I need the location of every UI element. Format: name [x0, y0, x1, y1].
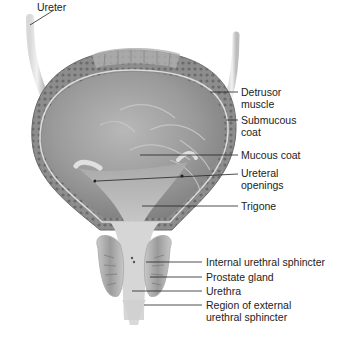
label-submucous-coat: Submucouscoat — [241, 114, 296, 138]
label-urethra: Urethra — [206, 285, 241, 297]
label-trigone: Trigone — [241, 200, 276, 212]
left-ureter — [30, 18, 44, 95]
prostate-right-lobe — [144, 235, 171, 296]
label-ureteral-openings: Ureteralopenings — [241, 167, 284, 191]
label-ureter: Ureter — [37, 1, 66, 13]
label-region-external-urethral-sphincter: Region of externalurethral sphincter — [206, 299, 291, 323]
bladder-diagram: Ureter Detrusormuscle Submucouscoat Muco… — [0, 0, 343, 343]
label-mucous-coat: Mucous coat — [241, 149, 301, 161]
right-ureter — [228, 35, 236, 100]
label-prostate-gland: Prostate gland — [206, 271, 274, 283]
bladder-illustration — [0, 0, 343, 343]
label-detrusor-muscle: Detrusormuscle — [241, 86, 281, 110]
prostate-left-lobe — [97, 235, 124, 296]
label-internal-urethral-sphincter: Internal urethral sphincter — [206, 256, 325, 268]
